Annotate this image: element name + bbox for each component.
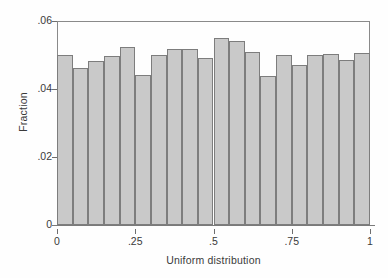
y-tick-label: .04 [30,83,52,94]
histogram-bar [292,65,308,225]
x-tick-mark [370,229,371,234]
x-tick-label: .75 [275,236,309,247]
x-tick-label: 1 [353,236,387,247]
histogram-bar [307,55,323,225]
histogram-bar [104,56,120,225]
histogram-bar [229,41,245,225]
histogram-bar [151,55,167,225]
histogram-bar [88,61,104,225]
histogram-bars [57,21,370,225]
y-tick-label: .06 [30,15,52,26]
histogram-bar [73,68,89,225]
histogram-bar [135,75,151,225]
histogram-bar [167,49,183,225]
x-axis-line [52,225,375,226]
x-tick-label: .25 [118,236,152,247]
x-tick-mark [57,229,58,234]
histogram-bar [214,38,230,225]
histogram-bar [354,53,370,225]
histogram-bar [276,55,292,225]
histogram-bar [323,54,339,225]
x-tick-label: .5 [197,236,231,247]
y-tick-label: 0 [30,219,52,230]
x-axis-title: Uniform distribution [57,254,370,266]
x-tick-mark [214,229,215,234]
histogram-figure: Fraction 0.02.04.06 0.25.5.751 Uniform d… [0,0,388,278]
histogram-bar [120,47,136,226]
x-tick-mark [292,229,293,234]
x-tick-mark [135,229,136,234]
histogram-bar [182,49,198,225]
histogram-bar [260,76,276,225]
histogram-bar [57,55,73,225]
histogram-bar [245,52,261,225]
histogram-bar [198,58,214,225]
histogram-bar [339,60,355,225]
x-tick-label: 0 [40,236,74,247]
y-tick-label: .02 [30,151,52,162]
